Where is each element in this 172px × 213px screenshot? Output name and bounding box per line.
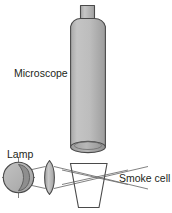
smoke-cell-body xyxy=(71,164,108,208)
lamp xyxy=(2,157,35,198)
label-microscope: Microscope xyxy=(14,67,68,79)
converging-lens xyxy=(45,161,55,195)
smoke-cell xyxy=(71,164,108,208)
label-smoke-cell: Smoke cell xyxy=(119,172,170,184)
brownian-motion-diagram: Microscope Lamp Smoke cell xyxy=(0,0,172,213)
diagram-canvas: Microscope Lamp Smoke cell xyxy=(0,0,172,213)
label-lamp: Lamp xyxy=(7,148,33,160)
microscope xyxy=(71,6,106,153)
microscope-barrel xyxy=(71,19,106,148)
lens-body xyxy=(45,161,55,195)
microscope-eyepiece-tube xyxy=(81,6,95,20)
